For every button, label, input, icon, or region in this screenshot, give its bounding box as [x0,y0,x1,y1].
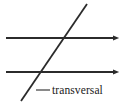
diagram-canvas: transversal [0,0,127,105]
transversal-figure: transversal [0,0,127,105]
transversal-label: transversal [52,84,103,96]
